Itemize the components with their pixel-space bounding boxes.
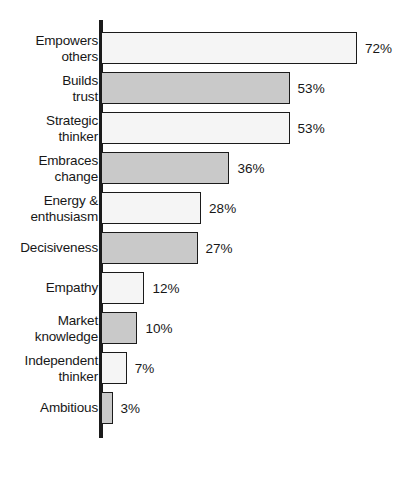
bar-value-label: 53% — [298, 81, 325, 96]
bar-value-label: 7% — [135, 361, 155, 376]
bar — [102, 232, 198, 264]
category-label: Energy & enthusiasm — [6, 193, 98, 224]
bar — [102, 272, 144, 304]
bar-with-value: 53% — [102, 112, 325, 144]
bar-row: Empowers others72% — [0, 28, 415, 68]
bar — [102, 112, 290, 144]
bar-with-value: 3% — [102, 392, 140, 424]
category-label: Empowers others — [6, 33, 98, 64]
category-label: Market knowledge — [6, 313, 98, 344]
bar-with-value: 28% — [102, 192, 236, 224]
bar — [102, 32, 357, 64]
bar-row: Builds trust53% — [0, 68, 415, 108]
bar-row: Strategic thinker53% — [0, 108, 415, 148]
bar-row: Empathy12% — [0, 268, 415, 308]
category-label: Builds trust — [6, 73, 98, 104]
category-label: Embraces change — [6, 153, 98, 184]
horizontal-bar-chart: Empowers others72%Builds trust53%Strateg… — [0, 0, 415, 480]
bar-value-label: 3% — [121, 401, 141, 416]
bar-with-value: 72% — [102, 32, 392, 64]
bar-with-value: 36% — [102, 152, 264, 184]
bar — [102, 192, 201, 224]
bar-value-label: 53% — [298, 121, 325, 136]
bar-with-value: 53% — [102, 72, 325, 104]
bar — [102, 152, 229, 184]
bar-row: Ambitious3% — [0, 388, 415, 428]
bar-value-label: 36% — [237, 161, 264, 176]
bars-container: Empowers others72%Builds trust53%Strateg… — [0, 28, 415, 428]
bar-row: Decisiveness27% — [0, 228, 415, 268]
bar-value-label: 27% — [206, 241, 233, 256]
bar — [102, 352, 127, 384]
bar-value-label: 72% — [365, 41, 392, 56]
category-label: Strategic thinker — [6, 113, 98, 144]
bar-row: Market knowledge10% — [0, 308, 415, 348]
category-label: Empathy — [6, 280, 98, 296]
bar-with-value: 27% — [102, 232, 233, 264]
bar — [102, 72, 290, 104]
category-label: Decisiveness — [6, 240, 98, 256]
bar-row: Embraces change36% — [0, 148, 415, 188]
category-label: Ambitious — [6, 400, 98, 416]
bar-with-value: 7% — [102, 352, 154, 384]
bar-row: Energy & enthusiasm28% — [0, 188, 415, 228]
bar-value-label: 28% — [209, 201, 236, 216]
bar-value-label: 10% — [145, 321, 172, 336]
bar — [102, 392, 113, 424]
bar-value-label: 12% — [152, 281, 179, 296]
category-label: Independent thinker — [6, 353, 98, 384]
bar-with-value: 12% — [102, 272, 180, 304]
bar-with-value: 10% — [102, 312, 172, 344]
bar — [102, 312, 137, 344]
bar-row: Independent thinker7% — [0, 348, 415, 388]
